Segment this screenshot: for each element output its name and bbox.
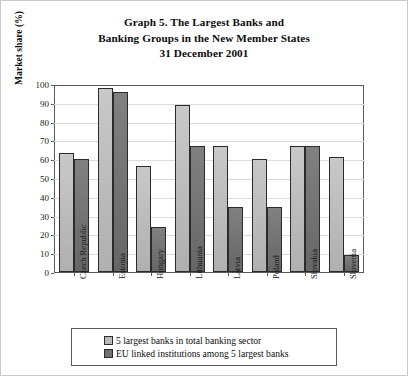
y-tick-label: 80 [40,118,49,128]
bar[interactable] [98,88,113,272]
x-tick-mark [344,272,345,276]
y-tick-label: 60 [40,155,49,165]
y-tick-mark [51,235,54,236]
legend-swatch [104,336,113,345]
y-tick-mark [51,217,54,218]
y-tick-mark [51,198,54,199]
bar-group: Estonia [94,86,133,272]
bar-group: Hungary [132,86,171,272]
bar[interactable] [252,159,267,272]
x-tick-label: Hungary [155,249,165,279]
chart-title-line-2: Banking Groups in the New Member States [1,31,407,47]
legend-item[interactable]: EU linked institutions among 5 largest b… [72,347,336,360]
y-tick-label: 40 [40,193,49,203]
y-tick-label: 90 [40,99,49,109]
x-tick-label: Slovenia [348,249,358,279]
y-tick-mark [51,104,54,105]
x-tick-label: Latvia [232,257,242,279]
bar[interactable] [213,146,228,272]
x-tick-mark [74,272,75,276]
bar[interactable] [136,166,151,272]
y-tick-label: 70 [40,136,49,146]
x-tick-label: Czech Republic [78,224,88,279]
y-tick-mark [51,141,54,142]
bar-group: Poland [248,86,287,272]
legend-label: 5 largest banks in total banking sector [116,335,261,346]
y-tick-mark [51,179,54,180]
bar[interactable] [59,153,74,272]
bar-group: Czech Republic [55,86,94,272]
chart-title-line-1: Graph 5. The Largest Banks and [1,15,407,31]
bar[interactable] [175,105,190,272]
legend-swatch [104,349,113,358]
y-tick-label: 50 [40,174,49,184]
y-axis-label: Market share (%) [13,0,24,113]
x-tick-mark [151,272,152,276]
x-tick-label: Slovakia [309,249,319,279]
bar-group: Slovenia [325,86,364,272]
x-tick-label: Lithuania [194,246,204,279]
bar[interactable] [290,146,305,272]
y-tick-mark [51,123,54,124]
x-tick-mark [305,272,306,276]
y-tick-label: 10 [40,249,49,259]
y-tick-mark [51,254,54,255]
bar-group: Lithuania [171,86,210,272]
bar-groups: Czech RepublicEstoniaHungaryLithuaniaLat… [55,86,363,272]
chart-title-line-3: 31 December 2001 [1,46,407,62]
x-tick-mark [190,272,191,276]
y-tick-mark [51,273,54,274]
chart-legend: 5 largest banks in total banking sectorE… [71,328,337,366]
y-tick-label: 20 [40,230,49,240]
bar[interactable] [113,92,128,272]
y-tick-label: 0 [45,268,50,278]
y-tick-label: 30 [40,212,49,222]
legend-item[interactable]: 5 largest banks in total banking sector [72,334,336,347]
y-tick-mark [51,85,54,86]
bar-group: Slovakia [286,86,325,272]
x-tick-label: Poland [271,255,281,279]
plot-area: 0102030405060708090100 Czech RepublicEst… [54,85,364,273]
bar[interactable] [329,157,344,272]
y-tick-label: 100 [36,80,50,90]
chart-figure: Graph 5. The Largest Banks and Banking G… [0,0,408,376]
y-tick-mark [51,160,54,161]
x-tick-label: Estonia [117,253,127,279]
chart-title: Graph 5. The Largest Banks and Banking G… [1,15,407,62]
x-tick-mark [267,272,268,276]
x-tick-mark [228,272,229,276]
x-tick-mark [113,272,114,276]
bar-group: Latvia [209,86,248,272]
legend-label: EU linked institutions among 5 largest b… [116,348,289,359]
